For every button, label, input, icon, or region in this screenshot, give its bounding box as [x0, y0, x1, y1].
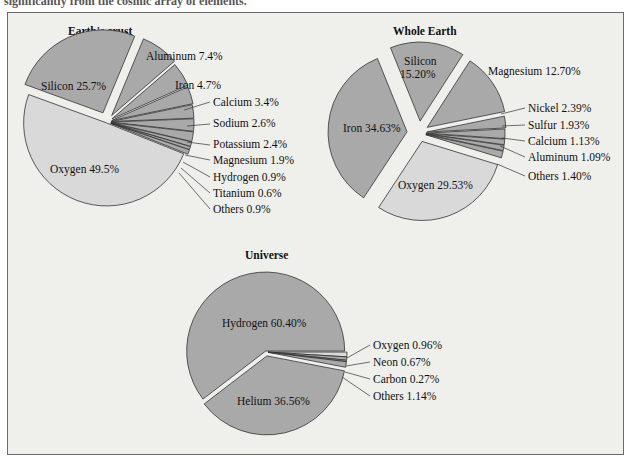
label-carbon: Carbon 0.27%: [373, 373, 440, 385]
label-iron: Iron 34.63%: [343, 122, 401, 134]
label-titanium: Titanium 0.6%: [213, 187, 282, 199]
label-potassium: Potassium 2.4%: [213, 138, 288, 150]
label-silicon: Silicon 25.7%: [41, 80, 107, 92]
label-silicon-line2: 15.20%: [400, 68, 436, 80]
label-hydrogen: Hydrogen 60.40%: [222, 317, 307, 330]
pie-earths-crust: Earth's crust Silicon 25.7% Oxygen 49.5%…: [24, 25, 295, 215]
label-others: Others 0.9%: [213, 203, 271, 215]
label-others: Others 1.40%: [528, 170, 592, 182]
label-helium: Helium 36.56%: [237, 395, 310, 407]
label-oxygen: Oxygen 49.5%: [50, 163, 119, 176]
label-magnesium: Magnesium 12.70%: [488, 65, 581, 78]
pie-universe: Universe Hydrogen 60.40% Helium 36.56% O…: [187, 249, 443, 435]
label-aluminum: Aluminum 1.09%: [528, 151, 611, 163]
label-aluminum: Aluminum 7.4%: [146, 50, 223, 62]
label-sodium: Sodium 2.6%: [213, 117, 276, 129]
universe-slices: [187, 272, 347, 435]
label-oxygen: Oxygen 29.53%: [398, 179, 473, 192]
chart-title-whole-earth: Whole Earth: [393, 25, 457, 37]
label-hydrogen: Hydrogen 0.9%: [213, 171, 286, 184]
chart-title-universe: Universe: [245, 249, 288, 261]
label-oxygen: Oxygen 0.96%: [373, 339, 442, 352]
label-iron: Iron 4.7%: [175, 79, 221, 91]
label-silicon-line1: Silicon: [404, 55, 437, 67]
label-sulfur: Sulfur 1.93%: [528, 119, 590, 131]
label-neon: Neon 0.67%: [373, 356, 431, 368]
pie-whole-earth: Whole Earth Silicon 15.20% Magnesium 12.…: [328, 25, 611, 220]
charts-canvas: Earth's crust Silicon 25.7% Oxygen 49.5%…: [0, 0, 631, 464]
label-calcium: Calcium 1.13%: [528, 135, 600, 147]
label-nickel: Nickel 2.39%: [528, 102, 592, 114]
label-magnesium: Magnesium 1.9%: [213, 154, 295, 167]
label-calcium: Calcium 3.4%: [213, 96, 279, 108]
label-others: Others 1.14%: [373, 390, 437, 402]
